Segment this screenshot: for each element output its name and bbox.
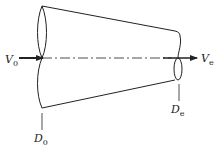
tube-lower-edge: [42, 80, 175, 108]
exit-velocity-label: Ve: [201, 52, 214, 67]
stream-tube-diagram: V0 Ve D0 De: [0, 0, 215, 150]
exit-cross-section: [174, 58, 182, 80]
inlet-velocity-label: V0: [5, 53, 18, 68]
exit-cross-section-upper: [178, 36, 181, 58]
exit-diameter-label: De: [170, 103, 185, 118]
inlet-diameter-label: D0: [33, 132, 48, 147]
tube-upper-edge: [42, 6, 180, 36]
